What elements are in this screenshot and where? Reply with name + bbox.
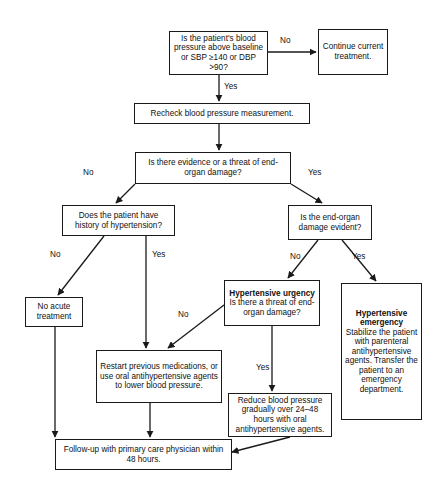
node-hypertensive-urgency-body: Is there a threat of end-organ damage? xyxy=(229,298,314,317)
node-history-question: Does the patient have history of hyperte… xyxy=(62,205,175,236)
edge-label-endorgan-no: No xyxy=(290,252,300,261)
node-followup: Follow-up with primary care physician wi… xyxy=(55,439,232,470)
edge-reduce-to-followup xyxy=(232,437,290,452)
node-hypertensive-emergency-title: Hypertensive emergency xyxy=(345,309,418,328)
edge-urgency-to-restart xyxy=(168,305,224,348)
node-endorgan-question: Is the end-organ damage evident? xyxy=(288,205,372,240)
node-endorgan-question-text: Is the end-organ damage evident? xyxy=(292,213,368,232)
edge-history-to-noacute xyxy=(58,236,104,295)
node-followup-text: Follow-up with primary care physician wi… xyxy=(59,445,228,464)
node-hypertensive-urgency: Hypertensive urgency Is there a threat o… xyxy=(224,280,320,326)
edge-label-evidence-yes: Yes xyxy=(308,168,321,177)
node-no-acute-treatment-text: No acute treatment xyxy=(29,302,79,321)
edge-label-history-no: No xyxy=(50,250,60,259)
edge-label-start-no: No xyxy=(280,36,290,45)
node-hypertensive-urgency-title: Hypertensive urgency xyxy=(228,289,316,299)
node-no-acute-treatment: No acute treatment xyxy=(25,297,83,327)
node-evidence-question-text: Is there evidence or a threat of end-org… xyxy=(139,158,287,177)
node-continue-treatment: Continue current treatment. xyxy=(318,29,388,75)
edge-label-history-yes: Yes xyxy=(152,250,165,259)
node-restart-medications-text: Restart previous medications, or use ora… xyxy=(100,362,218,391)
edge-evidence-to-endorgan xyxy=(291,184,322,203)
flowchart-canvas: Is the patient's blood pressure above ba… xyxy=(0,0,440,494)
node-continue-treatment-text: Continue current treatment. xyxy=(322,42,384,61)
node-start-question-text: Is the patient's blood pressure above ba… xyxy=(173,34,264,72)
edge-evidence-to-history xyxy=(116,184,135,203)
node-evidence-question: Is there evidence or a threat of end-org… xyxy=(135,152,291,184)
node-hypertensive-emergency: Hypertensive emergency Stabilize the pat… xyxy=(341,283,422,420)
node-recheck: Recheck blood pressure measurement. xyxy=(134,103,310,124)
node-reduce-blood-pressure-text: Reduce blood pressure gradually over 24–… xyxy=(232,396,328,434)
edge-label-start-yes: Yes xyxy=(224,82,237,91)
node-hypertensive-emergency-body: Stabilize the patient with parenteral an… xyxy=(345,328,418,394)
edge-label-endorgan-yes: Yes xyxy=(352,252,365,261)
node-restart-medications: Restart previous medications, or use ora… xyxy=(96,350,222,403)
node-recheck-text: Recheck blood pressure measurement. xyxy=(138,109,306,119)
edge-label-urgency-no: No xyxy=(178,310,188,319)
edge-label-evidence-no: No xyxy=(83,168,93,177)
node-reduce-blood-pressure: Reduce blood pressure gradually over 24–… xyxy=(228,393,332,437)
node-start-question: Is the patient's blood pressure above ba… xyxy=(169,31,268,75)
edge-label-urgency-yes: Yes xyxy=(256,363,269,372)
node-history-question-text: Does the patient have history of hyperte… xyxy=(66,211,171,230)
